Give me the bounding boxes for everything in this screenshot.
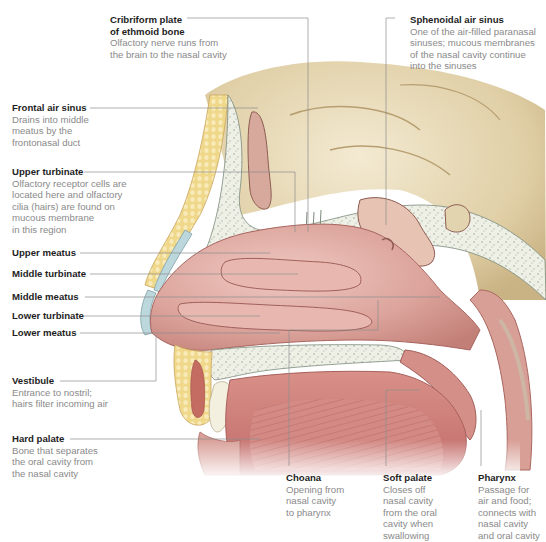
label-title: Upper meatus — [12, 247, 76, 259]
label-hard-palate: Hard palate Bone that separates the oral… — [12, 433, 132, 479]
label-pharynx: Pharynx Passage for air and food; connec… — [478, 472, 546, 542]
label-title: Cribriform plate — [110, 14, 290, 26]
label-description: Drains into middle meatus by the fronton… — [12, 114, 132, 149]
label-lower-meatus: Lower meatus — [12, 327, 77, 339]
label-title: Choana — [286, 472, 366, 484]
label-description: Passage for air and food; connects with … — [478, 484, 546, 542]
label-choana: Choana Opening from nasal cavity to phar… — [286, 472, 366, 518]
label-description: Opening from nasal cavity to pharynx — [286, 484, 366, 519]
label-lower-turbinate: Lower turbinate — [12, 310, 84, 322]
label-description: One of the air-filled paranasal sinuses;… — [410, 26, 546, 72]
label-title: Upper turbinate — [12, 166, 152, 178]
label-title: Middle turbinate — [12, 268, 86, 280]
label-middle-turbinate: Middle turbinate — [12, 268, 86, 280]
label-title: Lower turbinate — [12, 310, 84, 322]
label-vestibule: Vestibule Entrance to nostril; hairs fil… — [12, 375, 142, 410]
label-title: Frontal air sinus — [12, 102, 132, 114]
label-middle-meatus: Middle meatus — [12, 291, 79, 303]
label-upper-meatus: Upper meatus — [12, 247, 76, 259]
label-title-line2: of ethmoid bone — [110, 26, 290, 38]
label-soft-palate: Soft palate Closes off nasal cavity from… — [383, 472, 463, 542]
label-description: Olfactory receptor cells are located her… — [12, 178, 152, 236]
label-title: Hard palate — [12, 433, 132, 445]
label-title: Soft palate — [383, 472, 463, 484]
label-title: Lower meatus — [12, 327, 77, 339]
label-description: Olfactory nerve runs from the brain to t… — [110, 37, 290, 60]
label-title: Middle meatus — [12, 291, 79, 303]
label-frontal-air-sinus: Frontal air sinus Drains into middle mea… — [12, 102, 132, 148]
label-description: Entrance to nostril; hairs filter incomi… — [12, 387, 142, 410]
label-title: Sphenoidal air sinus — [410, 14, 546, 26]
label-upper-turbinate: Upper turbinate Olfactory receptor cells… — [12, 166, 152, 236]
label-description: Bone that separates the oral cavity from… — [12, 445, 132, 480]
label-description: Closes off nasal cavity from the oral ca… — [383, 484, 463, 542]
label-title: Vestibule — [12, 375, 142, 387]
label-cribriform-plate: Cribriform plate of ethmoid bone Olfacto… — [110, 14, 290, 60]
label-title: Pharynx — [478, 472, 546, 484]
label-sphenoidal-air-sinus: Sphenoidal air sinus One of the air-fill… — [410, 14, 546, 72]
